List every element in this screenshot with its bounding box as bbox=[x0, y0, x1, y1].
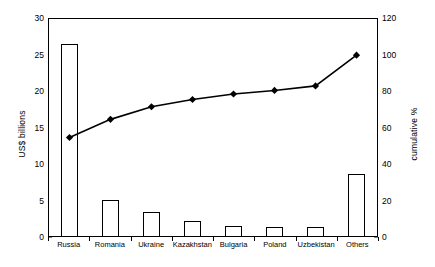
x-axis-category-labels: RussiaRomaniaUkraineKazakhstanBulgariaPo… bbox=[48, 241, 378, 257]
y-axis-left-tick-label: 15 bbox=[35, 123, 44, 132]
x-axis-category-label: Romania bbox=[89, 241, 130, 257]
x-axis-category-label: Uzbekistan bbox=[296, 241, 337, 257]
y-axis-left-ticks: 051015202530 bbox=[22, 18, 44, 237]
cumulative-marker-bulgaria bbox=[230, 90, 237, 97]
x-axis-category-label: Others bbox=[337, 241, 378, 257]
y-axis-left-tick-label: 0 bbox=[39, 233, 44, 242]
plot-area bbox=[48, 18, 378, 237]
x-axis-category-label: Russia bbox=[48, 241, 89, 257]
cumulative-marker-poland bbox=[271, 87, 278, 94]
cumulative-marker-kazakhstan bbox=[189, 96, 196, 103]
y-axis-right-tick-label: 100 bbox=[382, 50, 396, 59]
y-axis-right-tick-label: 20 bbox=[382, 196, 391, 205]
y-axis-right-tick-label: 0 bbox=[382, 233, 387, 242]
x-axis-category-label: Kazakhstan bbox=[172, 241, 213, 257]
y-axis-left-tick-label: 20 bbox=[35, 87, 44, 96]
y-axis-right-tick-label: 120 bbox=[382, 14, 396, 23]
x-axis-category-label: Bulgaria bbox=[213, 241, 254, 257]
pareto-chart: US$ billions cumulative % 051015202530 0… bbox=[0, 0, 435, 267]
y-axis-right-tick-label: 80 bbox=[382, 87, 391, 96]
cumulative-line-path bbox=[70, 55, 357, 137]
cumulative-line-series bbox=[49, 19, 377, 236]
y-axis-right-tick-label: 40 bbox=[382, 160, 391, 169]
x-axis-tick-mark bbox=[378, 237, 379, 241]
y-axis-right-tick-label: 60 bbox=[382, 123, 391, 132]
cumulative-marker-russia bbox=[66, 134, 73, 141]
y-axis-left-tick-label: 30 bbox=[35, 14, 44, 23]
cumulative-marker-romania bbox=[107, 116, 114, 123]
y-axis-left-tick-label: 10 bbox=[35, 160, 44, 169]
y-axis-right-title-wrap: cumulative % bbox=[421, 0, 435, 267]
y-axis-left-title-wrap: US$ billions bbox=[2, 0, 16, 267]
y-axis-right-ticks: 020406080100120 bbox=[382, 18, 404, 237]
y-axis-right-title: cumulative % bbox=[410, 107, 420, 160]
y-axis-left-tick-label: 25 bbox=[35, 50, 44, 59]
x-axis-category-label: Ukraine bbox=[131, 241, 172, 257]
x-axis-category-label: Poland bbox=[254, 241, 295, 257]
y-axis-left-tick-label: 5 bbox=[39, 196, 44, 205]
cumulative-marker-ukraine bbox=[148, 103, 155, 110]
